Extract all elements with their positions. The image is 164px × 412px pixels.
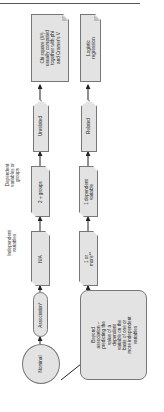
dependent-variables-label: Dependent variables or groups	[5, 163, 21, 187]
association-text: Association*	[38, 302, 43, 327]
chi-square-text: Chi square (X²) usually computed togethe…	[40, 30, 61, 66]
one-or-more-text: 1 or more**	[83, 251, 93, 265]
unrelated-node: Unrelated	[33, 100, 49, 152]
dependent-2-groups-text: 2 + groups	[38, 181, 43, 203]
nominal-start-node: Nominal	[22, 344, 60, 384]
one-dependent-variable-node: 1 dependent variable	[79, 166, 98, 217]
independent-variables-label: Independent variables	[7, 230, 17, 256]
chi-square-result-node: Chi square (X²) usually computed togethe…	[31, 14, 69, 82]
related-node: Related	[81, 100, 97, 152]
one-dependent-variable-text: 1 dependent variable	[83, 179, 93, 205]
logistic-regression-text: Logistic regression	[85, 37, 95, 58]
independent-na-node: N/A	[31, 231, 50, 286]
nominal-text: Nominal	[38, 356, 43, 373]
independent-na-text: N/A	[38, 255, 43, 263]
beyond-association-text: Beyond association – predicting the valu…	[90, 316, 137, 353]
unrelated-text: Unrelated	[38, 116, 43, 136]
dependent-2-groups-node: 2 + groups	[31, 166, 50, 217]
association-node: Association*	[33, 292, 48, 337]
related-text: Related	[86, 118, 91, 134]
logistic-regression-result-node: Logistic regression	[80, 14, 101, 82]
beyond-association-node: Beyond association – predicting the valu…	[80, 290, 147, 380]
one-or-more-independent-node: 1 or more**	[79, 231, 98, 286]
